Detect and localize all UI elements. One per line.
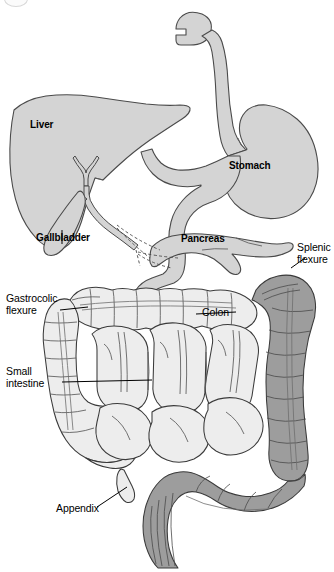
label-splenic-flexure: Splenic flexure (297, 242, 331, 265)
label-small-intestine: Small intestine (6, 366, 44, 389)
label-colon: Colon (202, 307, 229, 319)
label-appendix: Appendix (56, 503, 99, 515)
label-liver: Liver (30, 119, 53, 131)
digestive-system-illustration (0, 0, 334, 572)
label-gallbladder: Gallbladder (36, 232, 90, 244)
sigmoid-rectum-shape (143, 472, 305, 568)
descending-colon-shape (252, 275, 316, 481)
digestive-system-figure: Liver Gallbladder Stomach Pancreas Splen… (0, 0, 334, 572)
esophagus-shape (176, 12, 246, 156)
duodenum-shape (136, 149, 241, 297)
small-intestine-shape (92, 323, 263, 462)
label-stomach: Stomach (229, 160, 271, 172)
label-pancreas: Pancreas (181, 233, 225, 245)
label-gastrocolic-flexure: Gastrocolic flexure (6, 293, 57, 316)
